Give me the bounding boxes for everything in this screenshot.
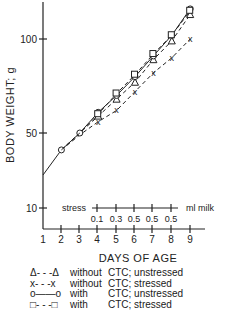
svg-text:x: x	[96, 117, 101, 127]
svg-text:0.5: 0.5	[146, 214, 159, 224]
legend-item: Δ- - -Δ without CTC; unstressed	[30, 268, 183, 279]
svg-text:3: 3	[76, 234, 82, 245]
svg-text:x: x	[133, 87, 138, 97]
stress-milk-annotation: stress ml milk 0.1 0.3 0.5 0.5 0.5	[62, 203, 214, 224]
svg-text:stress: stress	[62, 203, 87, 213]
svg-text:6: 6	[131, 234, 137, 245]
svg-text:50: 50	[26, 128, 38, 139]
series-square	[61, 7, 192, 150]
legend-item: o——o with CTC; unstressed	[30, 289, 183, 300]
svg-text:0.5: 0.5	[128, 214, 141, 224]
svg-text:ml milk: ml milk	[186, 203, 214, 213]
svg-text:x: x	[151, 68, 156, 78]
triangle-dashed-symbol: Δ- - -Δ	[30, 268, 70, 278]
svg-text:9: 9	[187, 234, 193, 245]
svg-text:0.5: 0.5	[165, 214, 178, 224]
x-axis-title: DAYS OF AGE	[99, 252, 178, 264]
square-dashed-symbol: □- - -□	[30, 300, 70, 310]
svg-text:4: 4	[94, 234, 100, 245]
svg-text:x: x	[188, 34, 193, 44]
series-layer: xxxxxx	[43, 6, 194, 175]
svg-text:2: 2	[58, 234, 64, 245]
svg-text:10: 10	[26, 203, 38, 214]
circle-solid-symbol: o——o	[30, 289, 70, 299]
svg-text:0.3: 0.3	[110, 214, 123, 224]
x-dashed-symbol: x- - -x	[30, 279, 70, 289]
legend-item: □- - -□ with CTC; stressed	[30, 300, 183, 311]
x-ticks: 1 2 3 4 5 6 7 8 9	[40, 225, 193, 245]
y-axis-title: BODY WEIGHT; g	[4, 67, 16, 163]
svg-text:0.1: 0.1	[91, 214, 104, 224]
svg-text:5: 5	[113, 234, 119, 245]
svg-text:1: 1	[40, 234, 46, 245]
svg-text:x: x	[170, 53, 175, 63]
svg-text:8: 8	[168, 234, 174, 245]
legend: Δ- - -Δ without CTC; unstressed x- - -x …	[30, 268, 183, 310]
series-circle	[58, 6, 193, 153]
svg-text:7: 7	[149, 234, 155, 245]
svg-text:100: 100	[20, 34, 37, 45]
svg-text:x: x	[114, 105, 119, 115]
